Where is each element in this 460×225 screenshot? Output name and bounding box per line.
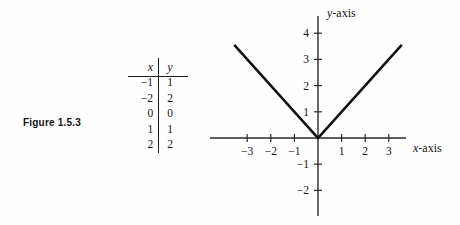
- y-axis-tick-labels: 4321−1−2: [297, 27, 310, 196]
- cell-x: −1: [128, 75, 159, 91]
- y-axis-label: y-axis: [326, 6, 356, 20]
- x-axis-label: x-axis: [412, 141, 442, 155]
- x-tick-label: −1: [288, 145, 300, 157]
- figure-caption: Figure 1.5.3: [23, 117, 81, 128]
- figure-page: Figure 1.5.3 x y −1 1 −2 2 0 0 1 1: [0, 0, 460, 225]
- cell-y: 0: [159, 106, 190, 122]
- y-tick-label: 1: [303, 106, 309, 118]
- x-tick-label: 1: [339, 145, 345, 157]
- x-tick-label: 2: [362, 145, 368, 157]
- value-table: x y −1 1 −2 2 0 0 1 1 2 2: [128, 58, 190, 153]
- cell-x: 1: [128, 122, 159, 138]
- column-header-x: x: [128, 58, 159, 75]
- table-row: 0 0: [128, 106, 190, 122]
- y-tick-label: 2: [303, 80, 309, 92]
- cell-y: 2: [159, 91, 190, 107]
- table-row: 2 2: [128, 137, 190, 153]
- x-tick-label: 3: [386, 145, 392, 157]
- table-header-rule: [128, 76, 188, 77]
- value-table-grid: x y −1 1 −2 2 0 0 1 1 2 2: [128, 58, 190, 153]
- y-tick-label: 4: [303, 27, 309, 39]
- cell-x: −2: [128, 91, 159, 107]
- table-row: −1 1: [128, 75, 190, 91]
- cell-y: 1: [159, 75, 190, 91]
- x-axis-tick-labels: −3−2−1123: [241, 145, 392, 157]
- x-tick-label: −3: [241, 145, 253, 157]
- y-tick-label: −1: [297, 158, 309, 170]
- cell-y: 1: [159, 122, 190, 138]
- cell-x: 0: [128, 106, 159, 122]
- cell-x: 2: [128, 137, 159, 153]
- y-tick-label: −2: [297, 184, 309, 196]
- y-tick-label: 3: [303, 53, 309, 65]
- graph-plot: −3−2−1123 4321−1−2 x-axis y-axis: [200, 0, 460, 225]
- cell-y: 2: [159, 137, 190, 153]
- column-header-y: y: [159, 58, 190, 75]
- x-tick-label: −2: [265, 145, 277, 157]
- table-header-row: x y: [128, 58, 190, 75]
- table-row: −2 2: [128, 91, 190, 107]
- table-row: 1 1: [128, 122, 190, 138]
